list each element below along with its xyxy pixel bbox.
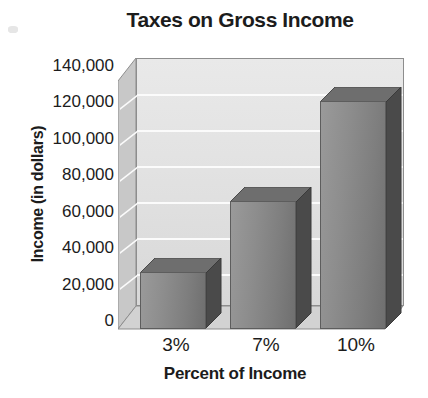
bar-3-percent[interactable] (140, 258, 206, 329)
scan-artifact (8, 26, 18, 33)
plot-area (118, 58, 404, 330)
y-tick-label-20000: 20,000 (28, 276, 114, 293)
bar-chart-figure: Taxes on Gross Income Income (in dollars… (0, 0, 428, 398)
chart-title: Taxes on Gross Income (60, 8, 420, 32)
bar-side-face-7-percent (296, 187, 312, 329)
y-tick-label-60000: 60,000 (28, 203, 114, 220)
y-tick-label-40000: 40,000 (28, 239, 114, 256)
y-tick-label-0: 0 (28, 312, 114, 329)
y-tick-label-100000: 100,000 (28, 130, 114, 147)
y-tick-label-140000: 140,000 (28, 57, 114, 74)
x-axis-title: Percent of Income (60, 364, 410, 384)
x-axis-tick-labels: 3% 7% 10% (118, 334, 408, 360)
bar-7-percent[interactable] (230, 187, 296, 329)
y-tick-label-120000: 120,000 (28, 93, 114, 110)
y-axis-tick-labels: 140,000 120,000 100,000 80,000 60,000 40… (28, 0, 114, 398)
x-tick-label-10-percent: 10% (316, 334, 396, 356)
y-tick-label-80000: 80,000 (28, 166, 114, 183)
bar-front-face-3-percent (140, 272, 206, 329)
bar-side-face-3-percent (206, 258, 222, 329)
x-tick-label-7-percent: 7% (226, 334, 306, 356)
bar-10-percent[interactable] (320, 87, 386, 329)
bar-top-face-10-percent (320, 87, 386, 101)
bar-front-face-7-percent (230, 201, 296, 329)
bar-front-face-10-percent (320, 101, 386, 329)
bar-top-face-7-percent (230, 187, 296, 201)
bar-side-face-10-percent (386, 87, 402, 329)
bar-top-face-3-percent (140, 258, 206, 272)
x-tick-label-3-percent: 3% (136, 334, 216, 356)
